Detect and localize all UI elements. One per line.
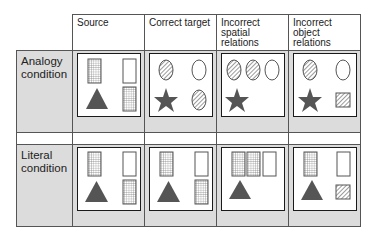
- literal-spatial-panel: [221, 147, 285, 211]
- literal-object-panel: [293, 147, 357, 211]
- hatched-square-icon: [336, 185, 350, 199]
- empty-rectangle-icon: [123, 59, 136, 83]
- star-icon: [225, 88, 249, 112]
- hatched-oval-icon: [192, 90, 206, 110]
- analogy-source-panel: [77, 53, 141, 117]
- triangle-icon: [229, 180, 251, 199]
- row-header-literal: Literal condition: [16, 144, 73, 227]
- grid-rectangle-icon: [195, 180, 208, 204]
- grid-rectangle-icon: [232, 152, 245, 176]
- triangle-icon: [85, 181, 108, 202]
- analogy-correct-panel: [149, 53, 213, 117]
- literal-correct-panel: [149, 147, 213, 211]
- row-header-analogy: Analogy condition: [16, 50, 73, 133]
- empty-rectangle-icon: [337, 152, 350, 176]
- empty-rectangle-icon: [263, 152, 276, 176]
- column-header-incorrect-spatial: Incorrect spatial relations: [216, 14, 289, 51]
- empty-oval-icon: [336, 60, 350, 80]
- triangle-icon: [301, 180, 323, 200]
- column-header-correct-target: Correct target: [144, 14, 217, 51]
- grid-rectangle-icon: [304, 152, 317, 176]
- star-icon: [298, 88, 322, 112]
- analogy-spatial-panel: [221, 53, 285, 117]
- analogy-object-panel: [293, 53, 357, 117]
- empty-rectangle-icon: [123, 152, 136, 176]
- empty-rectangle-icon: [195, 152, 208, 176]
- triangle-icon: [86, 88, 108, 109]
- hatched-square-icon: [336, 93, 350, 107]
- grid-rectangle-icon: [160, 152, 173, 176]
- hatched-oval-icon: [246, 60, 260, 80]
- grid-rectangle-icon: [88, 152, 101, 176]
- grid-rectangle-icon: [123, 180, 136, 204]
- grid-rectangle-icon: [123, 87, 136, 111]
- grid-rectangle-icon: [247, 152, 260, 176]
- star-icon: [154, 88, 178, 112]
- literal-source-panel: [77, 147, 141, 211]
- hatched-oval-icon: [303, 60, 317, 80]
- hatched-oval-icon: [159, 60, 173, 80]
- column-header-incorrect-object: Incorrect object relations: [288, 14, 361, 51]
- column-header-source: Source: [72, 14, 145, 51]
- triangle-icon: [157, 181, 180, 202]
- hatched-oval-icon: [227, 60, 241, 80]
- empty-oval-icon: [265, 60, 279, 80]
- empty-oval-icon: [192, 60, 206, 80]
- grid-rectangle-icon: [88, 59, 101, 83]
